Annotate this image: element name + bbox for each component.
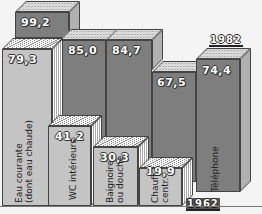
value-1982-eau: 99,2: [21, 16, 50, 29]
value-1982-chauff: 67,5: [157, 76, 186, 89]
category-label-baignoire: Baignoire ou douche: [105, 156, 125, 203]
value-1982-wc: 85,0: [68, 44, 97, 57]
category-label-eau: Eau courante (dont eau chaude): [14, 120, 34, 203]
value-1982-baignoire: 84,7: [112, 44, 141, 57]
category-label-telephone: Téléphone: [210, 146, 220, 192]
value-1962-eau: 79,3: [8, 53, 37, 66]
legend-year-1962: 1962: [186, 198, 220, 211]
baseline: [0, 206, 262, 207]
category-label-wc: WC intérieurs: [68, 139, 78, 200]
legend-year-1982: 1982: [209, 34, 243, 47]
value-1982-telephone: 74,4: [202, 64, 231, 77]
category-label-chauff: Chauff. centr.: [150, 171, 170, 203]
bar-1982-telephone-side: [240, 48, 251, 192]
